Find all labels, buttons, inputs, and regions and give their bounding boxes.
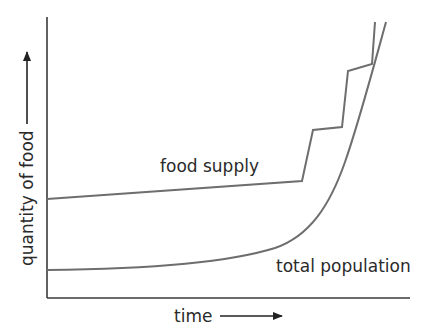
total-population-label: total population xyxy=(276,256,411,276)
y-axis-label: quantity of food xyxy=(17,130,37,266)
chart-canvas: food supply total population time quanti… xyxy=(0,0,425,336)
x-axis-label: time xyxy=(174,306,212,326)
total-population-curve xyxy=(47,22,386,270)
food-supply-label: food supply xyxy=(160,156,259,176)
